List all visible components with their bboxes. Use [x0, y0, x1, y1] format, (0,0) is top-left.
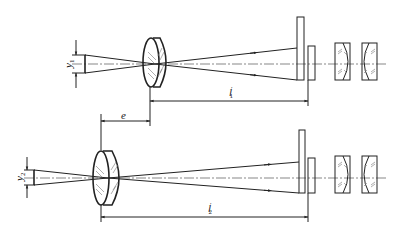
dimension-l1-prime: l′1: [150, 80, 308, 126]
ray: [85, 55, 155, 64]
dimension-e: e: [101, 109, 150, 150]
ray: [85, 64, 155, 73]
label-y2: y2: [13, 172, 27, 182]
eyepiece-lens-1-bottom: [335, 156, 350, 193]
label-e: e: [121, 109, 126, 121]
object-y1: y1: [62, 40, 86, 88]
field-plate-bottom: [308, 158, 315, 193]
reticle-plate-top: [297, 17, 304, 80]
label-y1: y1: [62, 59, 76, 69]
ray: [34, 170, 108, 178]
eyepiece-lens-1-top: [335, 43, 350, 80]
ray: [34, 178, 108, 185]
object-y2: y2: [13, 157, 35, 198]
dimension-l2-prime: l′2: [101, 193, 308, 222]
label-l2-prime: l′2: [208, 201, 213, 216]
ray: [108, 178, 299, 193]
eyepiece-lens-2-bottom: [362, 156, 377, 193]
ray: [155, 64, 297, 80]
eyepiece-lens-2-top: [362, 43, 377, 80]
optical-diagram: y1: [0, 0, 396, 238]
ray: [108, 162, 299, 178]
bottom-configuration: y2: [13, 130, 388, 222]
field-plate-top: [308, 46, 315, 80]
ray: [155, 48, 297, 64]
label-l1-prime: l′1: [229, 85, 234, 100]
top-configuration: y1: [62, 17, 388, 126]
reticle-plate-bottom: [299, 130, 305, 193]
